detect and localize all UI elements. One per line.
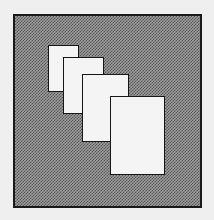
- stacked-pages-figure: [0, 0, 214, 220]
- page-card-4: [110, 96, 165, 175]
